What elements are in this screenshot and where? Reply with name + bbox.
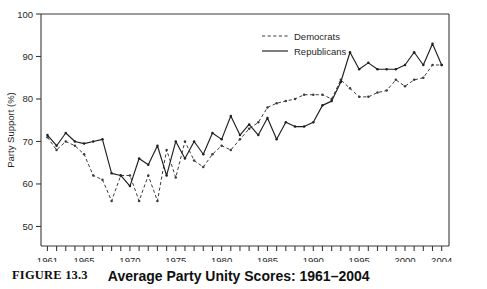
x-axis-tick-label: 2004 bbox=[431, 255, 452, 262]
data-point bbox=[349, 51, 352, 54]
data-point bbox=[101, 178, 104, 181]
x-axis-tick-label: 1970 bbox=[119, 255, 140, 262]
data-point bbox=[275, 102, 278, 105]
data-point bbox=[92, 174, 95, 177]
series-democrats bbox=[46, 64, 443, 202]
data-point bbox=[110, 172, 113, 175]
data-point bbox=[184, 157, 187, 160]
data-point bbox=[312, 121, 315, 124]
data-point bbox=[385, 68, 388, 71]
data-point bbox=[367, 96, 370, 99]
data-point bbox=[65, 140, 68, 143]
chart-plot-area: 5060708090100196119651970197519801985199… bbox=[0, 0, 487, 262]
data-point bbox=[303, 93, 306, 96]
x-axis-tick-label: 1980 bbox=[211, 255, 232, 262]
data-point bbox=[74, 140, 77, 143]
data-point bbox=[110, 200, 113, 203]
data-point bbox=[440, 64, 443, 67]
x-axis-tick-label: 1985 bbox=[257, 255, 278, 262]
data-point bbox=[413, 79, 416, 82]
x-axis-tick-label: 1975 bbox=[165, 255, 186, 262]
data-point bbox=[376, 91, 379, 94]
data-point bbox=[321, 93, 324, 96]
data-point bbox=[46, 134, 49, 137]
data-point bbox=[156, 144, 159, 147]
data-point bbox=[431, 64, 434, 67]
x-axis-tick-label: 1965 bbox=[74, 255, 95, 262]
data-point bbox=[202, 166, 205, 169]
data-point bbox=[294, 125, 297, 128]
figure-caption: FIGURE 13.3 Average Party Unity Scores: … bbox=[0, 262, 487, 289]
data-point bbox=[285, 121, 288, 124]
data-point bbox=[74, 144, 77, 147]
data-point bbox=[413, 51, 416, 54]
data-point bbox=[367, 62, 370, 65]
data-point bbox=[202, 153, 205, 156]
data-point bbox=[211, 132, 214, 135]
data-point bbox=[92, 140, 95, 143]
data-point bbox=[257, 134, 260, 137]
x-axis-tick-label: 1961 bbox=[37, 255, 58, 262]
caption-figure-number: FIGURE 13.3 bbox=[12, 268, 88, 283]
party-unity-line-chart: 5060708090100196119651970197519801985199… bbox=[0, 0, 487, 262]
y-axis-tick-label: 80 bbox=[22, 93, 33, 104]
data-point bbox=[220, 138, 223, 141]
data-point bbox=[266, 117, 269, 120]
data-point bbox=[147, 164, 150, 167]
data-point bbox=[138, 157, 141, 160]
data-point bbox=[376, 68, 379, 71]
data-point bbox=[220, 144, 223, 147]
data-point bbox=[248, 127, 251, 130]
caption-title-text: Average Party Unity Scores: 1961–2004 bbox=[108, 268, 370, 284]
data-point bbox=[193, 159, 196, 162]
x-axis-tick-label: 1990 bbox=[303, 255, 324, 262]
data-point bbox=[165, 149, 168, 152]
data-point bbox=[165, 174, 168, 177]
data-point bbox=[55, 149, 58, 152]
data-point bbox=[422, 76, 425, 79]
data-point bbox=[129, 185, 132, 188]
data-point bbox=[285, 100, 288, 103]
data-point bbox=[395, 68, 398, 71]
data-point bbox=[129, 174, 132, 177]
y-axis-tick-label: 50 bbox=[22, 221, 33, 232]
data-point bbox=[431, 42, 434, 45]
data-point bbox=[349, 87, 352, 90]
data-point bbox=[83, 142, 86, 145]
data-point bbox=[230, 115, 233, 118]
data-point bbox=[248, 123, 251, 126]
data-point bbox=[257, 121, 260, 124]
data-point bbox=[230, 149, 233, 152]
data-point bbox=[330, 100, 333, 103]
data-point bbox=[358, 68, 361, 71]
data-point bbox=[101, 138, 104, 141]
data-point bbox=[175, 140, 178, 143]
figure-container: 5060708090100196119651970197519801985199… bbox=[0, 0, 487, 289]
legend-label-republicans: Republicans bbox=[294, 46, 347, 57]
data-point bbox=[147, 174, 150, 177]
data-point bbox=[184, 140, 187, 143]
data-point bbox=[385, 89, 388, 92]
series-republicans bbox=[46, 42, 443, 187]
data-point bbox=[404, 85, 407, 88]
legend-label-democrats: Democrats bbox=[294, 31, 340, 42]
y-axis-title: Party Support (%) bbox=[5, 92, 16, 168]
data-point bbox=[175, 176, 178, 179]
data-point bbox=[239, 134, 242, 137]
data-point bbox=[239, 138, 242, 141]
y-axis-tick-label: 90 bbox=[22, 51, 33, 62]
data-point bbox=[340, 81, 343, 84]
series-line-democrats bbox=[47, 65, 441, 201]
data-point bbox=[120, 174, 123, 177]
data-point bbox=[321, 104, 324, 107]
data-point bbox=[404, 64, 407, 67]
data-point bbox=[294, 98, 297, 101]
data-point bbox=[65, 132, 68, 135]
data-point bbox=[395, 79, 398, 82]
y-axis-tick-label: 100 bbox=[17, 9, 33, 20]
x-axis-tick-label: 2000 bbox=[394, 255, 415, 262]
data-point bbox=[312, 93, 315, 96]
y-axis-tick-label: 70 bbox=[22, 136, 33, 147]
y-axis-tick-label: 60 bbox=[22, 178, 33, 189]
data-point bbox=[275, 138, 278, 141]
